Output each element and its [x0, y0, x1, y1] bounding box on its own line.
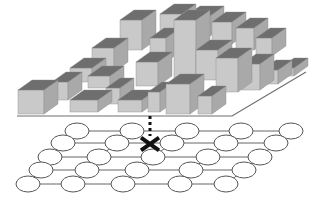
graph-node	[214, 135, 238, 151]
diagram-canvas	[0, 0, 324, 201]
graph-node	[196, 149, 220, 165]
bar-front-face	[256, 38, 272, 56]
graph-node	[16, 176, 40, 192]
graph-node	[141, 149, 165, 165]
graph-node	[105, 135, 129, 151]
graph-node	[179, 162, 203, 178]
bar-front-face	[148, 92, 160, 112]
histogram-bar	[18, 80, 58, 114]
bar-front-face	[174, 20, 196, 80]
graph-node	[264, 135, 288, 151]
bar-front-face	[236, 28, 254, 50]
graph-node	[232, 162, 256, 178]
graph-node	[51, 135, 75, 151]
graph-node	[168, 176, 192, 192]
bar-front-face	[166, 84, 190, 114]
bar-front-face	[198, 96, 212, 114]
bar-front-face	[88, 76, 110, 88]
graph-node	[248, 149, 272, 165]
graph-node	[160, 135, 184, 151]
graph-node	[214, 176, 238, 192]
graph-nodes	[16, 123, 303, 192]
bar-front-face	[118, 100, 142, 112]
histogram-graph-diagram	[0, 0, 324, 201]
bar-front-face	[136, 62, 158, 86]
histogram-bar	[216, 48, 252, 92]
graph-node	[29, 162, 53, 178]
graph-node	[111, 176, 135, 192]
3d-histogram	[17, 4, 308, 116]
histogram-bar	[136, 52, 172, 86]
graph-node	[125, 162, 149, 178]
bar-front-face	[70, 100, 98, 112]
bar-front-face	[18, 90, 44, 114]
graph-node	[61, 176, 85, 192]
graph-node	[75, 162, 99, 178]
